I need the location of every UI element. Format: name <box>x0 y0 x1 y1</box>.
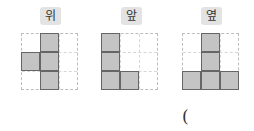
filled-cell <box>40 33 59 52</box>
filled-cell <box>201 33 220 52</box>
filled-cell <box>40 52 59 71</box>
front-view-label: 앞 <box>121 7 142 25</box>
front-view-grid <box>101 33 158 90</box>
filled-cell <box>201 52 220 71</box>
filled-cell <box>40 71 59 90</box>
answer-parenthesis: ( <box>182 106 189 126</box>
filled-cell <box>101 52 120 71</box>
filled-cell <box>21 52 40 71</box>
top-view-grid <box>21 33 78 90</box>
filled-cell <box>220 71 239 90</box>
filled-cell <box>101 71 120 90</box>
side-view-grid <box>182 33 239 90</box>
grid-line <box>139 34 140 89</box>
filled-cell <box>120 71 139 90</box>
side-view-label: 옆 <box>201 7 222 25</box>
filled-cell <box>201 71 220 90</box>
filled-cell <box>101 33 120 52</box>
top-view-label: 위 <box>40 7 61 25</box>
grid-line <box>59 34 60 89</box>
filled-cell <box>182 71 201 90</box>
